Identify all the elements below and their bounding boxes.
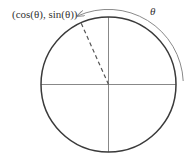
point-label: (cos(θ), sin(θ))	[12, 8, 78, 21]
unit-circle-diagram: (cos(θ), sin(θ)) θ	[0, 0, 193, 167]
angle-label: θ	[150, 5, 156, 17]
radius-dashed-line	[81, 23, 109, 85]
